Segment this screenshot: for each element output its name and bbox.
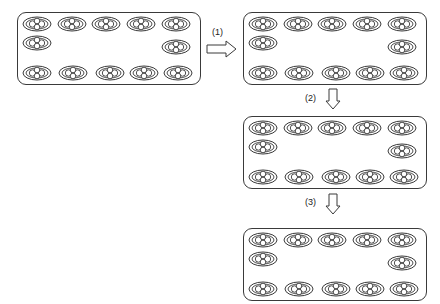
oval-unit-top [22, 16, 52, 32]
step-3-label: (3) [305, 197, 316, 207]
oval-unit-bottom [321, 65, 351, 81]
oval-unit-middle-right [387, 255, 417, 271]
oval-unit-top [283, 120, 313, 136]
step-2-label: (2) [305, 93, 316, 103]
oval-unit-bottom [284, 65, 314, 81]
oval-unit-bottom [129, 65, 159, 81]
oval-unit-top [352, 16, 382, 32]
right-arrow-icon [206, 40, 238, 58]
panel-after-step-2 [243, 116, 427, 189]
oval-unit-top [317, 232, 347, 248]
oval-unit-middle-left [248, 139, 278, 155]
down-arrow-icon [325, 193, 341, 215]
oval-unit-bottom [163, 65, 193, 81]
oval-unit-top [283, 232, 313, 248]
oval-unit-middle-left [22, 35, 52, 51]
oval-unit-bottom [355, 169, 385, 185]
oval-unit-bottom [95, 65, 125, 81]
panel-after-step-1 [243, 12, 427, 85]
oval-unit-bottom [22, 65, 52, 81]
oval-unit-top [57, 16, 87, 32]
oval-unit-bottom [355, 281, 385, 297]
oval-unit-top [283, 16, 313, 32]
oval-unit-bottom [321, 281, 351, 297]
oval-unit-bottom [321, 169, 351, 185]
oval-unit-top [91, 16, 121, 32]
oval-unit-bottom [58, 65, 88, 81]
oval-unit-top [126, 16, 156, 32]
oval-unit-bottom [389, 281, 419, 297]
oval-unit-top [387, 16, 417, 32]
down-arrow-icon [325, 88, 341, 110]
oval-unit-top [248, 120, 278, 136]
panel-initial [17, 12, 201, 85]
oval-unit-bottom [355, 65, 385, 81]
oval-unit-top [248, 232, 278, 248]
oval-unit-top [387, 232, 417, 248]
oval-unit-middle-left [248, 251, 278, 267]
oval-unit-bottom [248, 65, 278, 81]
oval-unit-bottom [284, 169, 314, 185]
oval-unit-middle-right [161, 39, 191, 55]
oval-unit-bottom [389, 65, 419, 81]
oval-unit-bottom [248, 169, 278, 185]
oval-unit-bottom [284, 281, 314, 297]
oval-unit-bottom [389, 169, 419, 185]
oval-unit-middle-right [387, 143, 417, 159]
step-1-label: (1) [212, 27, 223, 37]
oval-unit-middle-left [248, 35, 278, 51]
oval-unit-middle-right [387, 39, 417, 55]
oval-unit-top [387, 120, 417, 136]
oval-unit-top [317, 120, 347, 136]
oval-unit-top [161, 16, 191, 32]
oval-unit-bottom [248, 281, 278, 297]
oval-unit-top [317, 16, 347, 32]
oval-unit-top [248, 16, 278, 32]
oval-unit-top [352, 120, 382, 136]
oval-unit-top [352, 232, 382, 248]
panel-after-step-3 [243, 228, 427, 301]
